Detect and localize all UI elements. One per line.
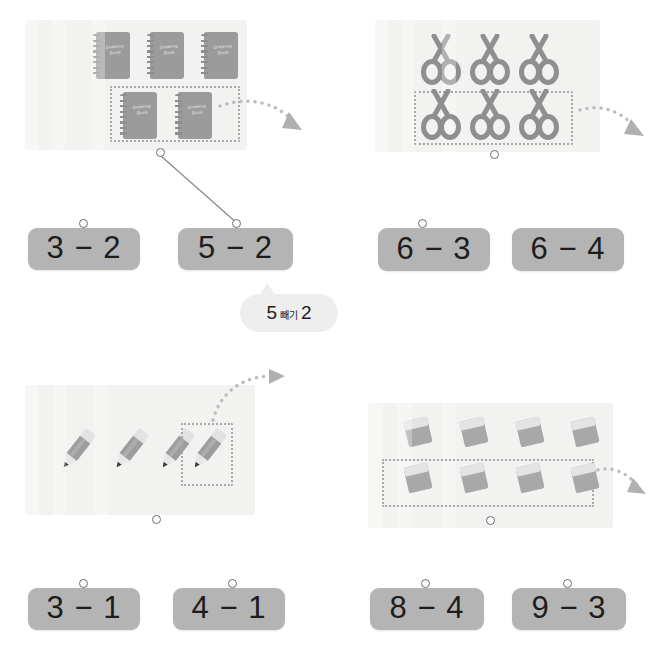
eraser-icon-selected — [400, 461, 436, 495]
panel-connector-dot-1[interactable] — [156, 148, 165, 157]
bubble-second-number: 2 — [301, 302, 312, 324]
bubble-tail — [258, 283, 278, 299]
scissors-icon-selected — [519, 89, 559, 141]
book-label: Drawing Book — [211, 43, 236, 56]
book-spiral-icon — [147, 34, 154, 77]
worksheet-canvas: Drawing Book Drawing Book Drawing Book D… — [0, 0, 654, 655]
answer-card[interactable]: 6 − 3 — [378, 228, 490, 271]
card-connector-dot[interactable] — [79, 579, 88, 588]
answer-card-label: 5 − 2 — [198, 230, 273, 266]
book-cover — [150, 32, 184, 79]
illustration-panel-scissors — [375, 20, 600, 152]
panel-connector-dot-3[interactable] — [152, 515, 161, 524]
scissors-icon-selected — [421, 89, 461, 141]
scissors-icon — [519, 34, 559, 86]
answer-card-label: 9 − 3 — [532, 590, 607, 626]
answer-card[interactable]: 8 − 4 — [370, 588, 484, 630]
card-connector-dot[interactable] — [79, 219, 88, 228]
eraser-icon — [400, 415, 436, 449]
answer-card[interactable]: 6 − 4 — [512, 228, 624, 271]
remove-arrow-icon — [205, 368, 300, 423]
answer-card-selected[interactable]: 5 − 2 — [178, 228, 293, 270]
eraser-icon — [456, 415, 492, 449]
illustration-panel-eraser — [368, 403, 613, 528]
eraser-icon — [512, 415, 548, 449]
eraser-icon-selected — [456, 461, 492, 495]
book-spiral-icon — [175, 94, 182, 137]
connector-line-1 — [150, 145, 260, 235]
remove-arrow-icon — [218, 92, 318, 142]
book-spiral-icon — [201, 34, 208, 77]
drawing-book-item: Drawing Book — [201, 32, 238, 79]
drawing-book-item: Drawing Book — [93, 32, 130, 79]
pencil-icon — [108, 425, 154, 471]
book-label: Drawing Book — [157, 43, 182, 56]
answer-card-label: 3 − 1 — [47, 590, 122, 626]
speech-bubble: 5 빼기 2 — [240, 294, 338, 332]
answer-card[interactable]: 9 − 3 — [512, 588, 626, 630]
book-cover — [178, 92, 212, 139]
panel-connector-dot-2[interactable] — [490, 150, 499, 159]
answer-card[interactable]: 3 − 2 — [28, 228, 140, 270]
answer-card-label: 4 − 1 — [192, 590, 267, 626]
scissors-icon — [421, 34, 461, 86]
card-connector-dot[interactable] — [228, 579, 237, 588]
drawing-book-item: Drawing Book — [147, 32, 184, 79]
book-cover — [96, 32, 130, 79]
remove-arrow-icon — [596, 462, 654, 502]
answer-card-label: 3 − 2 — [47, 230, 122, 266]
card-connector-dot-connected[interactable] — [232, 219, 241, 228]
eraser-icon-selected — [512, 461, 548, 495]
card-connector-dot[interactable] — [418, 219, 427, 228]
bubble-first-number: 5 — [266, 302, 277, 324]
book-label: Drawing Book — [103, 43, 128, 56]
book-spiral-icon — [93, 34, 100, 77]
bubble-operator-word: 빼기 — [280, 307, 298, 322]
card-connector-dot[interactable] — [421, 579, 430, 588]
book-cover — [204, 32, 238, 79]
answer-card[interactable]: 3 − 1 — [28, 588, 140, 630]
drawing-book-item-selected: Drawing Book — [120, 92, 157, 139]
answer-card[interactable]: 4 − 1 — [173, 588, 285, 630]
answer-card-label: 6 − 4 — [531, 231, 606, 267]
answer-card-label: 8 − 4 — [390, 590, 465, 626]
panel-connector-dot-4[interactable] — [486, 516, 495, 525]
scissors-icon — [470, 34, 510, 86]
pencil-icon-selected — [186, 425, 232, 471]
remove-arrow-icon — [578, 98, 654, 148]
answer-card-label: 6 − 3 — [397, 231, 472, 267]
scissors-icon-selected — [470, 89, 510, 141]
book-label: Drawing Book — [185, 103, 210, 116]
card-connector-dot[interactable] — [563, 579, 572, 588]
book-cover — [123, 92, 157, 139]
book-spiral-icon — [120, 94, 127, 137]
drawing-book-item-selected: Drawing Book — [175, 92, 212, 139]
eraser-icon — [567, 415, 603, 449]
book-label: Drawing Book — [130, 103, 155, 116]
pencil-icon — [55, 425, 101, 471]
illustration-panel-drawing-book: Drawing Book Drawing Book Drawing Book D… — [25, 20, 247, 150]
